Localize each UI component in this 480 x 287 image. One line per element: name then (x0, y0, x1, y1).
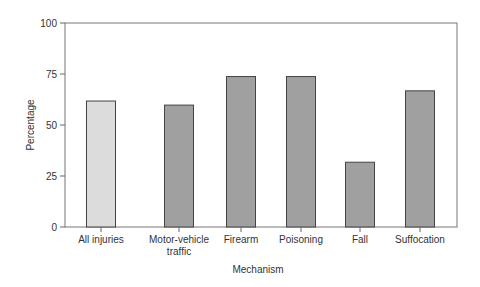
y-tick-label: 0 (51, 222, 57, 233)
y-tick-label: 25 (46, 171, 58, 182)
x-tick-label: All injuries (78, 234, 124, 245)
x-tick-label: Motor-vehicle (149, 234, 209, 245)
bar-fall (346, 162, 375, 227)
y-axis-title: Percentage (25, 99, 36, 151)
x-axis: All injuriesMotor-vehicletrafficFirearmP… (78, 227, 445, 257)
y-tick-label: 50 (46, 120, 58, 131)
bar-suffocation (406, 91, 435, 227)
bar-motor-vehicle-traffic (165, 105, 194, 227)
y-tick-label: 100 (40, 18, 57, 29)
bar-firearm (227, 77, 256, 227)
x-tick-label: Firearm (224, 234, 258, 245)
bar-chart: 0255075100 All injuriesMotor-vehicletraf… (0, 0, 480, 287)
x-tick-label: Suffocation (395, 234, 445, 245)
bar-poisoning (287, 77, 316, 227)
plot-area (65, 23, 457, 227)
bar-all-injuries (87, 101, 116, 227)
bars-group (87, 77, 435, 227)
x-tick-label: Fall (352, 234, 368, 245)
plot-border (65, 23, 457, 227)
x-tick-label: traffic (167, 246, 191, 257)
y-axis: 0255075100 (40, 18, 65, 233)
x-tick-label: Poisoning (279, 234, 323, 245)
y-tick-label: 75 (46, 69, 58, 80)
x-axis-title: Mechanism (232, 264, 283, 275)
